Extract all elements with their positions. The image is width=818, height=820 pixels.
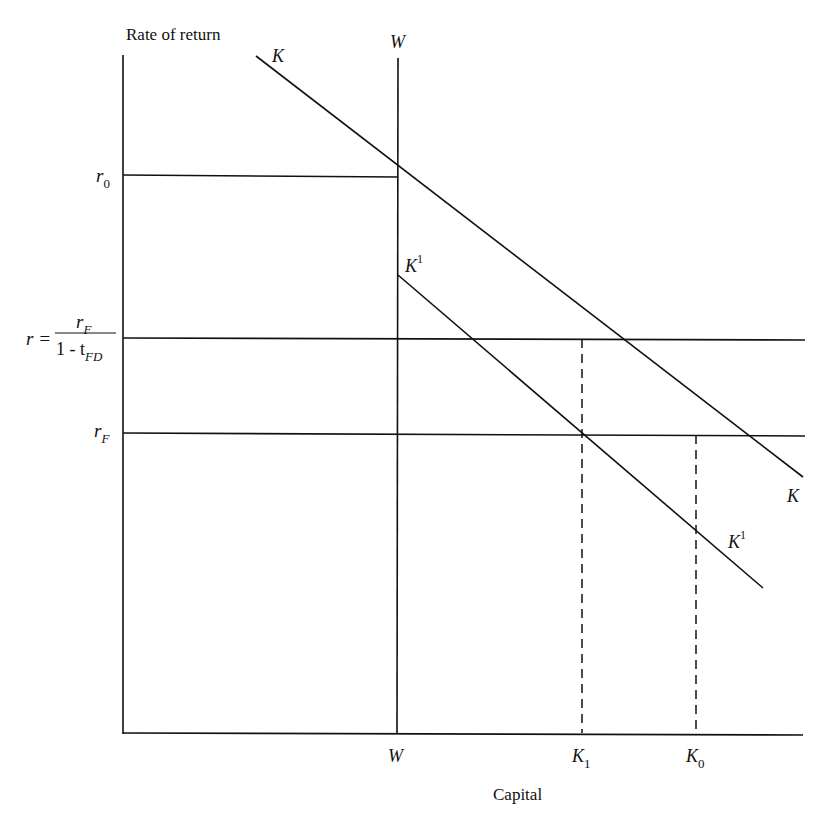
k0-tick-sub: 0 bbox=[698, 756, 705, 771]
k1-tick-base: K bbox=[571, 746, 585, 766]
r-gross-lhs: r = bbox=[26, 328, 51, 349]
rf-line bbox=[123, 433, 805, 436]
rf-sub: F bbox=[100, 431, 110, 446]
k1-label-sup: 1 bbox=[417, 252, 423, 266]
k1-curve-label-top: K1 bbox=[404, 252, 423, 276]
y-axis-title: Rate of return bbox=[126, 25, 221, 44]
k1-right-label-sup: 1 bbox=[740, 528, 746, 542]
economics-diagram: Rate of return K W K1 K K1 r0 r = rF 1 -… bbox=[0, 0, 818, 820]
w-line bbox=[397, 58, 398, 733]
k1-right-label-base: K bbox=[727, 532, 741, 552]
k1-curve-label-right: K1 bbox=[727, 528, 746, 552]
k0-tick-label: K0 bbox=[685, 746, 705, 771]
r-den-prefix: 1 - t bbox=[56, 339, 85, 359]
k-curve bbox=[256, 56, 803, 477]
k-curve-label-top: K bbox=[271, 46, 285, 66]
r0-label: r0 bbox=[96, 165, 110, 191]
k1-curve bbox=[398, 275, 763, 588]
r-gross-line bbox=[123, 338, 805, 340]
w-line-label-top: W bbox=[390, 32, 407, 52]
k-curve-label-right: K bbox=[786, 486, 800, 506]
r0-sub: 0 bbox=[103, 176, 110, 191]
rf-label: rF bbox=[94, 420, 110, 446]
x-axis-title: Capital bbox=[493, 785, 542, 804]
k1-label-base: K bbox=[404, 256, 418, 276]
r-gross-denominator: 1 - tFD bbox=[56, 339, 103, 364]
r-den-sub: FD bbox=[84, 349, 103, 364]
k1-tick-label: K1 bbox=[571, 746, 591, 771]
w-tick-label: W bbox=[388, 746, 405, 766]
k1-tick-sub: 1 bbox=[584, 756, 591, 771]
x-axis bbox=[123, 733, 803, 735]
k0-tick-base: K bbox=[685, 746, 699, 766]
r-num-sub: F bbox=[82, 322, 92, 337]
r0-line bbox=[123, 175, 398, 177]
